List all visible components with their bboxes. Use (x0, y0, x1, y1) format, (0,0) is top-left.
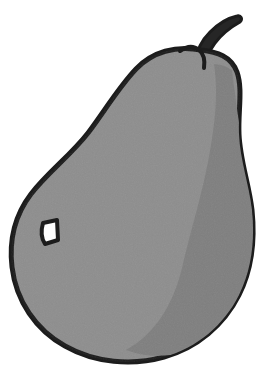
illustration-canvas (0, 0, 277, 383)
pear-illustration (0, 0, 277, 383)
pear-hole (42, 220, 58, 244)
